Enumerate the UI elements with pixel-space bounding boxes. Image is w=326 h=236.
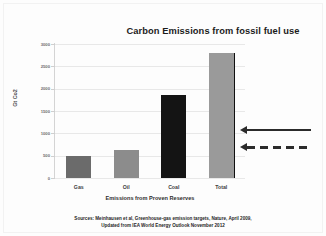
source-footnote: Sources: Meinhausen et al, Greenhouse-ga… [8, 216, 318, 229]
slide-canvas: Carbon Emissions from fossil fuel use 30… [0, 0, 326, 236]
y-axis-tick-mark [51, 133, 55, 134]
page-title: Carbon Emissions from fossil fuel use [110, 26, 316, 36]
x-axis-title: Emissions from Proven Reserves [55, 195, 245, 201]
bar-total [209, 53, 235, 178]
gridline [55, 44, 245, 45]
y-axis-tick-mark [51, 178, 55, 179]
y-axis-tick-label: 2000 [26, 86, 50, 91]
gridline [55, 178, 245, 179]
x-axis-tick-label: Coal [150, 184, 198, 190]
y-axis-tick-mark [51, 44, 55, 45]
arrow-left-icon [240, 143, 247, 151]
y-axis-tick-mark [51, 156, 55, 157]
x-axis-tick-label: Gas [55, 184, 103, 190]
y-axis-tick-label: 1000 [26, 131, 50, 136]
x-axis-tick-label: Total [198, 184, 246, 190]
y-axis-tick-labels: 300025002000150010005000 [24, 0, 50, 236]
annotation-group [240, 118, 326, 160]
bar-gas [66, 156, 91, 178]
bar-coal [161, 95, 186, 178]
arrow-shaft-dashed [247, 146, 311, 148]
y-axis-tick-mark [51, 66, 55, 67]
y-axis-tick-mark [51, 89, 55, 90]
y-axis-tick-label: 0 [26, 176, 50, 181]
bar-oil [114, 150, 139, 178]
x-axis-tick-label: Oil [103, 184, 151, 190]
y-axis-tick-mark [51, 111, 55, 112]
y-axis-tick-label: 3000 [26, 42, 50, 47]
y-axis-tick-label: 500 [26, 153, 50, 158]
footnote-line-1: Sources: Meinhausen et al, Greenhouse-ga… [8, 216, 318, 223]
y-axis-tick-label: 1500 [26, 109, 50, 114]
footnote-line-2: Updated from IEA World Energy Outlook No… [8, 223, 318, 230]
plot-area [55, 44, 245, 178]
y-axis-title: Gt Co2 [12, 76, 18, 120]
y-axis-tick-label: 2500 [26, 64, 50, 69]
arrow-shaft [246, 129, 311, 131]
